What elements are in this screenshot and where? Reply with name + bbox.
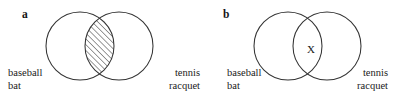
set-label-line-2: racquet [357,79,388,92]
intersection-x-mark-b: X [307,44,315,55]
set-label-baseball-bat-a: baseball bat [8,66,42,92]
set-label-line-1: tennis [357,66,388,79]
venn-diagram-figure: a baseball bat [0,0,410,105]
set-label-tennis-racquet-b: tennis racquet [357,66,388,92]
set-label-line-1: baseball [8,66,42,79]
set-circle-tennis-racquet-b [293,12,361,80]
venn-panel-b: b X baseball bat tennis racquet [205,0,410,105]
set-label-line-2: racquet [169,79,200,92]
venn-panel-a: a baseball bat [0,0,205,105]
set-label-line-2: bat [8,79,42,92]
set-label-baseball-bat-b: baseball bat [227,66,261,92]
set-label-line-1: tennis [169,66,200,79]
set-label-line-1: baseball [227,66,261,79]
set-label-tennis-racquet-a: tennis racquet [169,66,200,92]
set-label-line-2: bat [227,79,261,92]
